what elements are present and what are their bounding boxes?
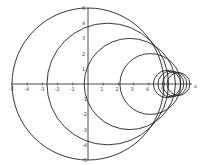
x-tick-label: -4 <box>24 86 29 92</box>
x-tick-label: 3 <box>131 86 134 92</box>
x-tick-label: 4 <box>146 86 149 92</box>
y-tick-label: 3 <box>82 35 85 41</box>
x-tick-label: 1 <box>100 86 103 92</box>
y-tick-label: -4 <box>82 142 87 148</box>
x-tick-label: -3 <box>39 86 44 92</box>
x-tick-label: -1 <box>70 86 75 92</box>
y-tick-label: -3 <box>82 127 87 133</box>
x-tick-label: -5 <box>9 86 14 92</box>
y-tick-label: 1 <box>82 66 85 72</box>
x-tick-label: -2 <box>55 86 60 92</box>
x-axis-label: x <box>194 83 197 89</box>
x-tick-label: 2 <box>115 86 118 92</box>
axes <box>13 8 192 160</box>
diagram: -5-4-3-2-11234554321-1-2-3-4-5x <box>0 0 203 165</box>
y-tick-label: 2 <box>82 51 85 57</box>
y-tick-label: -2 <box>82 111 87 117</box>
y-tick-label: 4 <box>82 20 85 26</box>
